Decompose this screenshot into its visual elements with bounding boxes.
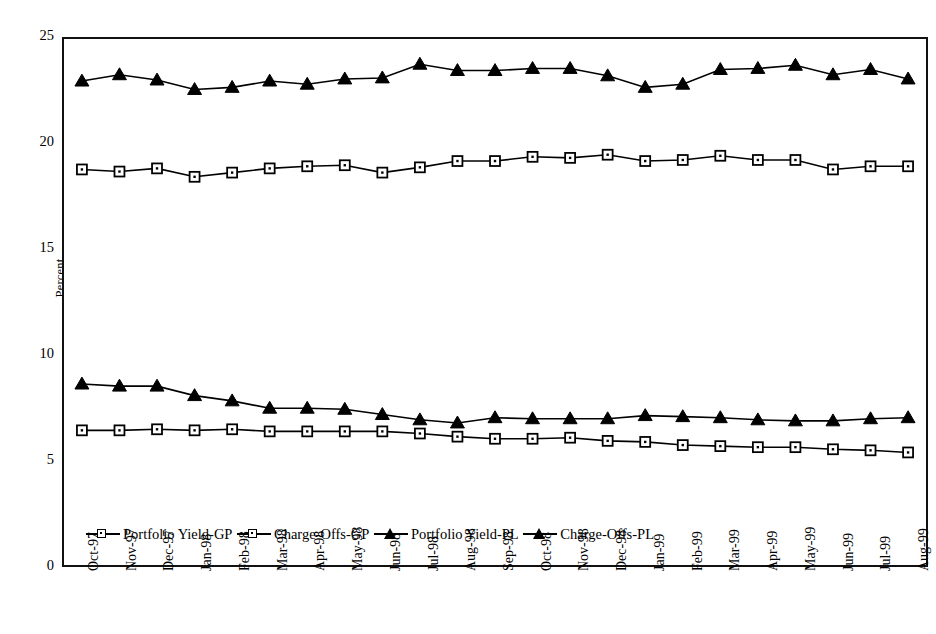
data-point-marker	[338, 72, 352, 84]
data-point-marker	[263, 74, 277, 86]
data-point-marker	[788, 58, 802, 70]
data-point-marker	[790, 442, 800, 452]
data-point-marker	[77, 425, 87, 435]
data-point-marker	[678, 155, 688, 165]
data-point-marker	[713, 63, 727, 75]
data-point-marker	[903, 161, 913, 171]
legend-item-3[interactable]: Charge-Offs-PL	[523, 526, 654, 543]
data-point-marker	[377, 426, 387, 436]
data-point-marker	[190, 425, 200, 435]
data-point-marker	[715, 441, 725, 451]
data-point-marker	[415, 429, 425, 439]
data-point-marker	[490, 156, 500, 166]
y-axis-tick-labels: 2520151050	[8, 0, 54, 634]
data-point-marker	[340, 160, 350, 170]
data-point-marker	[788, 414, 802, 426]
data-point-marker	[150, 379, 164, 391]
triangle-marker-icon	[374, 527, 408, 541]
data-point-marker	[565, 433, 575, 443]
data-point-marker	[490, 434, 500, 444]
data-point-marker	[488, 411, 502, 423]
series-charge-offs-gp	[77, 424, 913, 457]
y-tick-label: 0	[12, 558, 54, 572]
plot-area	[62, 37, 928, 567]
data-point-marker	[603, 150, 613, 160]
y-tick-label: 20	[12, 134, 54, 148]
data-point-marker	[227, 168, 237, 178]
data-point-marker	[676, 77, 690, 89]
data-point-marker	[302, 426, 312, 436]
x-axis-tick-labels: Oct-97Nov-97Dec-97Jan-98Feb-98Mar-98Apr-…	[62, 567, 928, 634]
data-point-marker	[903, 447, 913, 457]
data-point-marker	[413, 57, 427, 69]
data-point-marker	[265, 163, 275, 173]
data-point-marker	[528, 434, 538, 444]
data-point-marker	[563, 412, 577, 424]
data-point-marker	[864, 412, 878, 424]
data-point-marker	[113, 68, 127, 80]
data-point-marker	[565, 153, 575, 163]
data-point-marker	[866, 161, 876, 171]
triangle-marker-icon	[523, 527, 557, 541]
square-marker-icon	[237, 527, 271, 541]
data-point-marker	[377, 168, 387, 178]
data-point-marker	[114, 425, 124, 435]
chart-legend: Portfolio Yield-GPCharge-Offs-GPPortfoli…	[64, 513, 676, 555]
series-canvas	[64, 39, 926, 565]
data-point-marker	[265, 426, 275, 436]
data-point-marker	[528, 152, 538, 162]
data-point-marker	[753, 155, 763, 165]
legend-item-label: Portfolio Yield-PL	[411, 526, 519, 543]
data-point-marker	[227, 424, 237, 434]
data-point-marker	[338, 402, 352, 414]
series-portfolio-yield-pl	[75, 57, 915, 94]
data-point-marker	[114, 167, 124, 177]
data-point-marker	[152, 163, 162, 173]
data-point-marker	[715, 151, 725, 161]
data-point-marker	[638, 409, 652, 421]
y-tick-label: 5	[12, 452, 54, 466]
data-point-marker	[828, 164, 838, 174]
data-point-marker	[452, 432, 462, 442]
data-point-marker	[300, 401, 314, 413]
data-point-marker	[676, 410, 690, 422]
data-point-marker	[452, 156, 462, 166]
data-point-marker	[302, 161, 312, 171]
series-charge-offs-pl	[75, 377, 915, 428]
legend-item-label: Charge-Offs-GP	[274, 526, 369, 543]
y-tick-label: 10	[12, 346, 54, 360]
legend-item-2[interactable]: Portfolio Yield-PL	[374, 526, 519, 543]
legend-item-1[interactable]: Charge-Offs-GP	[237, 526, 369, 543]
legend-item-0[interactable]: Portfolio Yield-GP	[86, 526, 232, 543]
data-point-marker	[415, 162, 425, 172]
data-point-marker	[828, 444, 838, 454]
y-tick-label: 15	[12, 240, 54, 254]
series-portfolio-yield-gp	[77, 150, 913, 182]
data-point-marker	[901, 411, 915, 423]
data-point-marker	[864, 63, 878, 75]
legend-item-label: Portfolio Yield-GP	[123, 526, 232, 543]
legend-item-label: Charge-Offs-PL	[560, 526, 654, 543]
data-point-marker	[866, 445, 876, 455]
data-point-marker	[640, 156, 650, 166]
data-point-marker	[526, 62, 540, 74]
data-point-marker	[678, 440, 688, 450]
y-tick-label: 25	[12, 28, 54, 42]
data-point-marker	[77, 164, 87, 174]
data-point-marker	[603, 436, 613, 446]
data-point-marker	[152, 424, 162, 434]
data-point-marker	[190, 172, 200, 182]
data-point-marker	[713, 411, 727, 423]
data-point-marker	[526, 412, 540, 424]
data-point-marker	[75, 377, 89, 389]
data-point-marker	[340, 426, 350, 436]
data-point-marker	[563, 62, 577, 74]
data-point-marker	[790, 155, 800, 165]
x-tick-label: Aug-99	[916, 555, 936, 571]
data-point-marker	[753, 442, 763, 452]
data-point-marker	[640, 437, 650, 447]
square-marker-icon	[86, 527, 120, 541]
